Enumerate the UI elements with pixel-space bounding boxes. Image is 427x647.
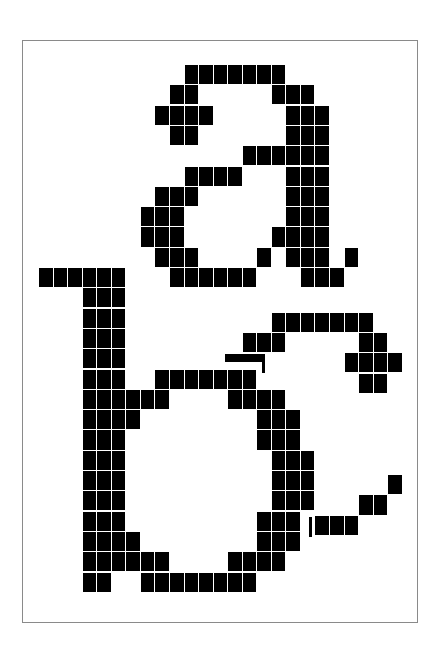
glyph-a-and-b-pixel <box>301 167 315 186</box>
glyph-a-and-b-pixel <box>301 85 315 104</box>
glyph-a-and-b-pixel <box>126 552 140 571</box>
glyph-a-and-b-pixel <box>185 370 199 389</box>
glyph-a-and-b-pixel <box>170 370 184 389</box>
glyph-a-and-b-pixel <box>185 167 199 186</box>
glyph-a-and-b-pixel <box>83 512 97 531</box>
glyph-a-and-b-pixel <box>286 451 300 470</box>
glyph-a-and-b-pixel <box>83 491 97 510</box>
glyph-a-and-b-pixel <box>272 390 286 409</box>
glyph-a-and-b-pixel <box>83 390 97 409</box>
glyph-a-and-b-pixel <box>301 207 315 226</box>
glyph-a-and-b-pixel <box>286 85 300 104</box>
glyph-a-and-b-pixel <box>112 471 126 490</box>
glyph-a-and-b-pixel <box>97 268 111 287</box>
glyph-a-and-b-pixel <box>97 410 111 429</box>
glyph-a-and-b-pixel <box>286 146 300 165</box>
glyph-a-and-b-pixel <box>141 227 155 246</box>
glyph-a-and-b-pixel <box>97 370 111 389</box>
glyph-a-and-b-pixel <box>141 207 155 226</box>
glyph-c-pixel <box>388 475 402 494</box>
glyph-a-and-b-pixel <box>214 268 228 287</box>
glyph-a-and-b-pixel <box>257 146 271 165</box>
glyph-c-pixel <box>315 516 329 535</box>
glyph-a-and-b-pixel <box>257 65 271 84</box>
glyph-a-and-b-pixel <box>286 126 300 145</box>
glyph-a-and-b-pixel <box>155 573 169 592</box>
glyph-a-and-b-pixel <box>315 167 329 186</box>
glyph-a-and-b-pixel <box>228 573 242 592</box>
glyph-a-and-b-pixel <box>185 126 199 145</box>
glyph-a-and-b-pixel <box>83 532 97 551</box>
glyph-a-and-b-pixel <box>126 532 140 551</box>
glyph-c-pixel <box>374 495 388 514</box>
glyph-a-and-b-pixel <box>83 451 97 470</box>
glyph-a-and-b-pixel <box>68 268 82 287</box>
glyph-a-and-b-pixel <box>97 390 111 409</box>
glyph-a-and-b-pixel <box>315 207 329 226</box>
glyph-a-and-b-pixel <box>272 430 286 449</box>
glyph-a-and-b-pixel <box>228 370 242 389</box>
glyph-a-and-b-pixel <box>257 552 271 571</box>
glyph-a-and-b-pixel <box>301 106 315 125</box>
glyph-a-and-b-pixel <box>286 167 300 186</box>
glyph-a-and-b-pixel <box>112 491 126 510</box>
glyph-a-and-b-pixel <box>170 227 184 246</box>
glyph-a-and-b-pixel <box>286 512 300 531</box>
glyph-c-pixel <box>272 313 286 332</box>
glyph-a-and-b-pixel <box>83 349 97 368</box>
glyph-a-and-b-pixel <box>272 512 286 531</box>
glyph-a-and-b-pixel <box>83 370 97 389</box>
glyph-a-and-b-pixel <box>272 65 286 84</box>
glyph-a-and-b-pixel <box>83 309 97 328</box>
glyph-a-and-b-pixel <box>272 146 286 165</box>
glyph-a-and-b-pixel <box>286 187 300 206</box>
glyph-a-and-b-pixel <box>83 573 97 592</box>
glyph-a-and-b-pixel <box>170 268 184 287</box>
glyph-a-and-b-pixel <box>170 126 184 145</box>
glyph-a-and-b-pixel <box>112 268 126 287</box>
glyph-a-and-b-pixel <box>97 430 111 449</box>
glyph-a-and-b-pixel <box>112 370 126 389</box>
glyph-a-and-b-pixel <box>272 85 286 104</box>
glyph-a-and-b-pixel <box>286 106 300 125</box>
glyph-a-and-b-pixel <box>97 309 111 328</box>
glyph-a-and-b-pixel <box>286 410 300 429</box>
glyph-a-and-b-pixel <box>185 65 199 84</box>
glyph-a-and-b-pixel <box>185 248 199 267</box>
glyph-a-and-b-pixel <box>112 390 126 409</box>
glyph-a-and-b-pixel <box>97 532 111 551</box>
glyph-a-and-b-pixel <box>185 85 199 104</box>
glyph-a-and-b-pixel <box>315 248 329 267</box>
glyph-c-pixel <box>374 374 388 393</box>
glyph-a-and-b-pixel <box>199 106 213 125</box>
glyph-a-and-b-pixel <box>83 288 97 307</box>
glyph-a-and-b-pixel <box>126 390 140 409</box>
glyph-a-and-b-pixel <box>315 146 329 165</box>
glyph-a-and-b-pixel <box>83 410 97 429</box>
glyph-a-and-b-pixel <box>228 268 242 287</box>
glyph-a-and-b-pixel <box>155 227 169 246</box>
glyph-a-and-b-pixel <box>272 227 286 246</box>
glyph-a-and-b-pixel <box>272 532 286 551</box>
glyph-a-and-b-pixel <box>97 288 111 307</box>
glyph-c-pixel <box>243 333 257 352</box>
glyph-a-and-b-pixel <box>141 552 155 571</box>
glyph-a-and-b-pixel <box>141 573 155 592</box>
glyph-a-and-b-pixel <box>243 573 257 592</box>
glyph-a-and-b-pixel <box>97 471 111 490</box>
glyph-a-and-b-pixel <box>257 248 271 267</box>
glyph-a-and-b-pixel <box>155 187 169 206</box>
glyph-a-and-b-pixel <box>243 390 257 409</box>
glyph-a-and-b-pixel <box>286 248 300 267</box>
glyph-a-and-b-pixel <box>170 207 184 226</box>
glyph-a-and-b-pixel <box>185 106 199 125</box>
glyph-a-and-b-pixel <box>272 410 286 429</box>
glyph-a-and-b-pixel <box>286 207 300 226</box>
glyph-a-and-b-pixel <box>243 65 257 84</box>
glyph-c-pixel <box>345 353 359 372</box>
glyph-a-and-b-pixel <box>315 227 329 246</box>
glyph-a-and-b-pixel <box>112 451 126 470</box>
glyph-a-and-b-pixel <box>272 491 286 510</box>
glyph-a-and-b-pixel <box>155 207 169 226</box>
glyph-a-and-b-pixel <box>97 573 111 592</box>
